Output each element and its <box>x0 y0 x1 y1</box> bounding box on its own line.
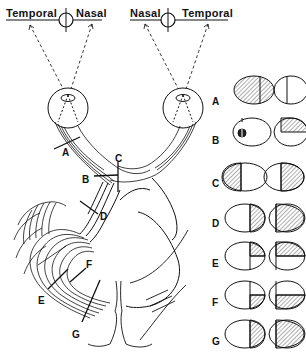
field-row-c <box>222 163 304 191</box>
field-row-label-c: C <box>212 179 219 189</box>
field-row-a <box>234 76 306 104</box>
field-row-b <box>233 118 306 146</box>
field-row-d <box>225 204 305 232</box>
field-row-label-e: E <box>212 259 219 269</box>
visual-pathway-figure: Temporal Nasal Nasal Temporal <box>0 0 306 353</box>
field-row-label-f: F <box>212 298 218 308</box>
field-row-e <box>225 242 305 270</box>
field-row-label-d: D <box>212 219 219 229</box>
field-row-label-a: A <box>212 97 219 107</box>
field-row-f <box>225 281 305 309</box>
field-defect-grid <box>0 0 306 353</box>
field-row-g <box>225 320 305 348</box>
field-row-label-b: B <box>212 136 219 146</box>
field-row-label-g: G <box>212 337 220 347</box>
